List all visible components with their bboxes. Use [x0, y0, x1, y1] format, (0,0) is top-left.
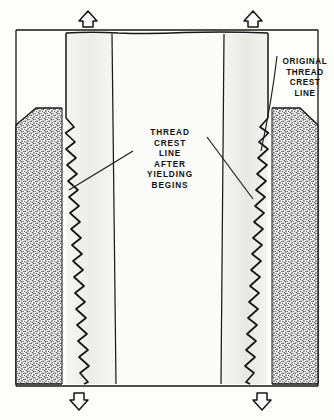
label-thread-crest-line-after-yielding-begins: THREAD CREST LINE AFTER YIELDING BEGINS [133, 128, 207, 192]
load-arrow-bottom-left [70, 393, 88, 410]
load-arrow-bottom-right [253, 393, 271, 410]
nut-right [272, 108, 318, 384]
nut-left [16, 108, 62, 384]
load-arrow-top-right [244, 11, 262, 27]
bolt-shank [66, 33, 268, 384]
label-original-thread-crest-line: ORIGINAL THREAD CREST LINE [276, 57, 334, 99]
load-arrow-top-left [79, 11, 97, 27]
